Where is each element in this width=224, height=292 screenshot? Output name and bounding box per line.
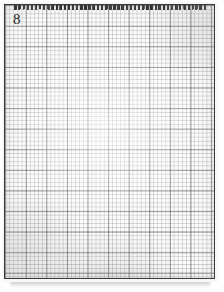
stitch-cell bbox=[89, 5, 91, 10]
stitch-cell bbox=[200, 5, 202, 9]
stitch-cell bbox=[81, 5, 83, 10]
stitch-cell bbox=[69, 5, 71, 9]
chart-frame: 8 bbox=[4, 4, 215, 279]
stitch-marks-layer bbox=[5, 5, 214, 278]
stitch-cell bbox=[23, 5, 25, 9]
stitch-cell bbox=[64, 5, 66, 9]
stitch-cell bbox=[188, 5, 190, 10]
stitch-cell bbox=[159, 5, 161, 9]
stitch-cell bbox=[114, 5, 116, 9]
stitch-cell bbox=[110, 5, 112, 9]
stitch-cell bbox=[31, 5, 33, 9]
stitch-cell bbox=[146, 5, 148, 10]
plate-number: 8 bbox=[13, 12, 21, 27]
stitch-cell bbox=[72, 5, 74, 9]
stitch-cell bbox=[155, 5, 157, 10]
stitch-cell bbox=[150, 5, 152, 10]
stitch-cell bbox=[163, 5, 165, 9]
stitch-cell bbox=[44, 5, 46, 9]
stitch-cell bbox=[97, 5, 99, 9]
stitch-cell bbox=[196, 5, 198, 9]
stitch-cell bbox=[39, 5, 41, 9]
stitch-cell bbox=[15, 5, 17, 10]
stitch-cell bbox=[93, 5, 95, 9]
stitch-cell bbox=[171, 5, 173, 10]
stitch-cell bbox=[60, 5, 62, 10]
stitch-cell bbox=[134, 5, 136, 10]
stitch-cell bbox=[117, 5, 119, 9]
stitch-cell bbox=[76, 5, 78, 9]
stitch-cell bbox=[179, 5, 181, 9]
stitch-cell bbox=[105, 5, 107, 10]
chart-page: 8 bbox=[0, 0, 224, 292]
stitch-cell bbox=[176, 5, 178, 10]
stitch-cell bbox=[192, 5, 194, 9]
stitch-cell bbox=[130, 5, 132, 9]
stitch-cell bbox=[84, 5, 86, 10]
stitch-cell bbox=[138, 5, 140, 10]
stitch-cell bbox=[126, 5, 128, 10]
stitch-cell bbox=[204, 5, 206, 9]
stitch-cell bbox=[167, 5, 169, 9]
stitch-cell bbox=[101, 5, 103, 10]
stitch-cell bbox=[27, 5, 29, 10]
stitch-cell bbox=[47, 5, 49, 9]
